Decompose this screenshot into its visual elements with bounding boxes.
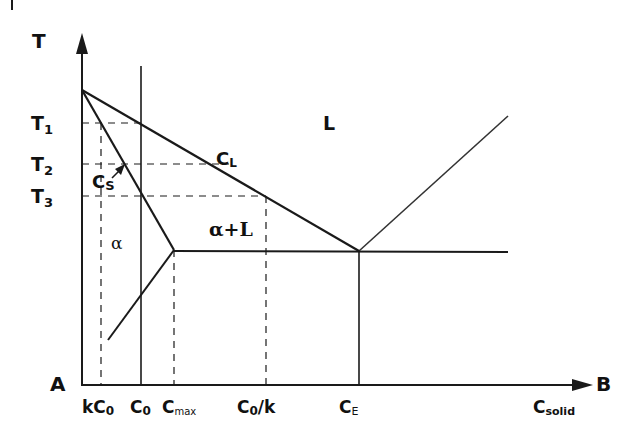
liquidus-label: CL bbox=[216, 148, 237, 170]
solidus-label: CS bbox=[92, 171, 115, 193]
y-axis-arrow-icon bbox=[76, 33, 88, 54]
ce-label: CE bbox=[339, 397, 358, 418]
eutectic-isotherm bbox=[174, 251, 508, 252]
phase-diagram: T A B T1 T2 T3 kC0 C0 Cmax C0/k CE Csoli… bbox=[0, 0, 641, 441]
y-axis-label: T bbox=[32, 29, 46, 53]
dashed-guides bbox=[82, 123, 266, 385]
x-end-label: B bbox=[596, 372, 611, 396]
alpha-region-label: α bbox=[111, 233, 123, 253]
kc0-label: kC0 bbox=[82, 397, 114, 418]
two-phase-region-label: α+L bbox=[209, 218, 253, 240]
liquid-region-label: L bbox=[323, 112, 335, 134]
x-axis-arrow-icon bbox=[572, 379, 593, 391]
origin-label: A bbox=[50, 372, 66, 396]
solidus-line bbox=[82, 90, 174, 250]
x-axis bbox=[81, 379, 593, 391]
x-axis-title: Csolid bbox=[533, 397, 575, 418]
t3-label: T3 bbox=[31, 185, 53, 210]
c0k-label: C0/k bbox=[237, 397, 276, 418]
liquidus-line-right bbox=[359, 116, 508, 251]
t1-label: T1 bbox=[31, 112, 53, 137]
cmax-label: Cmax bbox=[162, 397, 196, 417]
c0-label: C0 bbox=[130, 397, 151, 418]
y-axis bbox=[76, 33, 88, 386]
t2-label: T2 bbox=[31, 153, 53, 178]
